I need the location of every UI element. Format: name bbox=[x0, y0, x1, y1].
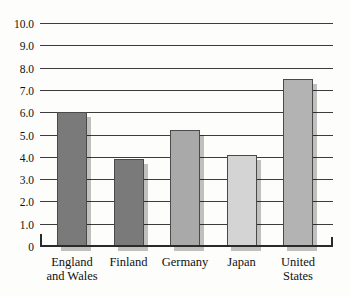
y-tick-label: 8.0 bbox=[2, 63, 34, 75]
y-axis-left-hook bbox=[40, 234, 42, 247]
y-tick-label: 3.0 bbox=[2, 174, 34, 186]
gridline-9.0 bbox=[40, 45, 333, 46]
bar-united-states bbox=[283, 79, 313, 246]
y-tick-label: 2.0 bbox=[2, 196, 34, 208]
y-tick-label: 6.0 bbox=[2, 107, 34, 119]
y-tick-label: 1.0 bbox=[2, 219, 34, 231]
y-tick-label: 0 bbox=[2, 241, 34, 253]
bar-chart: 01.02.03.04.05.06.07.08.09.010.0England … bbox=[0, 0, 350, 296]
y-tick-label: 9.0 bbox=[2, 40, 34, 52]
gridline-8.0 bbox=[40, 68, 333, 69]
y-tick-label: 7.0 bbox=[2, 85, 34, 97]
bar-japan bbox=[227, 155, 257, 246]
y-tick-label: 5.0 bbox=[2, 130, 34, 142]
bar-england-and-wales bbox=[57, 112, 87, 246]
y-tick-label: 4.0 bbox=[2, 152, 34, 164]
x-category-label-united-states: United States bbox=[263, 255, 333, 283]
bar-finland bbox=[114, 159, 144, 246]
y-tick-label: 10.0 bbox=[2, 18, 34, 30]
bar-germany bbox=[170, 130, 200, 246]
gridline-10.0 bbox=[40, 23, 333, 24]
x-axis-baseline bbox=[40, 245, 333, 247]
axis-right-hook bbox=[331, 237, 333, 247]
